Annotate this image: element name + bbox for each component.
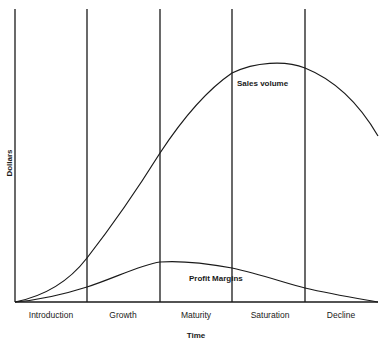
stage-label-saturation: Saturation: [251, 310, 290, 320]
product-life-cycle-chart: Sales volume Profit Margins Dollars Intr…: [0, 0, 385, 346]
y-axis-title: Dollars: [5, 149, 14, 177]
stage-dividers: [15, 9, 305, 302]
stage-label-growth: Growth: [109, 310, 137, 320]
stage-label-introduction: Introduction: [29, 310, 74, 320]
sales-volume-label: Sales volume: [237, 79, 289, 88]
stage-label-decline: Decline: [327, 310, 356, 320]
profit-margins-label: Profit Margins: [189, 274, 243, 283]
sales-volume-curve: [15, 63, 378, 302]
x-axis-title: Time: [187, 331, 206, 340]
stage-label-maturity: Maturity: [181, 310, 212, 320]
